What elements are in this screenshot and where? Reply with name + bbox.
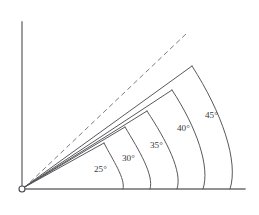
ray-45	[23, 66, 192, 188]
angle-label-25: 25°	[94, 164, 107, 174]
arc-35	[147, 111, 178, 189]
arc-40	[172, 90, 205, 189]
angle-label-30: 30°	[122, 153, 135, 163]
ray-35	[23, 111, 147, 188]
angle-label-35: 35°	[150, 140, 163, 150]
origin-marker	[19, 186, 25, 192]
angle-label-40: 40°	[177, 123, 190, 133]
angle-diagram-canvas: 25° 30° 35° 40° 45°	[0, 0, 259, 215]
angle-label-45: 45°	[205, 110, 218, 120]
angle-diagram: 25° 30° 35° 40° 45°	[0, 0, 259, 215]
arc-45	[192, 66, 232, 189]
arc-25	[104, 143, 123, 189]
